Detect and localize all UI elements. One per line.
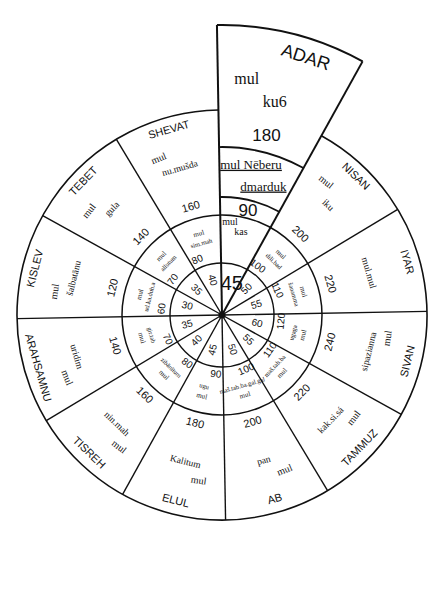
star-prefix: mul [275,462,294,478]
star-prefix: mul [80,201,98,220]
spoke-line [222,311,427,315]
middle-star: ugu [199,381,211,390]
month-name: ARAHSAMNU [23,332,54,403]
inner-value: 35 [189,282,205,298]
spoke-line [46,315,222,421]
middle-star: ugaga [288,324,299,341]
star-name: ku6 [263,93,287,110]
month-name: ADAR [279,40,333,74]
inner-value: 35 [180,317,194,331]
middle-star: šanamma [287,282,301,308]
month-name: TAMMUZ [339,427,380,469]
middle-value: 90 [210,368,223,380]
star-name: nu.mušda [161,158,200,178]
month-name: SIVAN [398,344,417,378]
middle-star-prefix: mul [135,288,145,301]
center-dot [219,312,226,319]
star-name: gula [103,199,122,218]
outer-value: 220 [322,273,339,294]
outer-value: 140 [130,226,151,248]
month-name: ELUL [161,491,191,509]
star-name: kak.si.sá [316,404,346,435]
inner-value: 30 [181,299,195,312]
spoke-line [17,315,222,319]
star-prefix: mul [234,70,259,87]
inner-star: kas [234,226,247,237]
star-prefix: mul [190,474,207,487]
inner-value: 50 [226,343,240,357]
middle-value: 60 [155,302,167,315]
star-name: šalbatānu [65,259,83,296]
middle-star-prefix: mul [192,229,205,240]
middle-star-prefix: mul Nēberu [220,157,282,172]
astrolabe-svg: ADARmulku6180mul Nēberudmarduk90mulkas45… [0,0,447,607]
star-name: uridim [68,343,85,371]
outer-value: 140 [107,335,124,356]
month-name: NISAN [340,160,373,192]
star-name: Kalitum [169,453,202,470]
star-name: nin.mah [102,409,131,438]
middle-star-prefix: mul [298,329,308,342]
inner-value: 60 [250,316,264,329]
star-prefix: mul [110,437,129,455]
middle-star-prefix: mul [298,285,309,298]
middle-star-prefix: mul [275,366,288,379]
middle-value: 100 [236,360,256,377]
spoke-line [222,315,226,520]
month-name: IYAR [398,248,416,275]
inner-value: 45 [206,343,219,357]
star-prefix: mul [59,368,75,387]
outer-value: 180 [185,415,206,431]
middle-star-prefix: mul [196,391,209,401]
star-prefix: mul [149,150,168,166]
middle-value: 120 [274,312,287,330]
middle-value: 110 [269,281,286,300]
month-name: KISLEV [24,248,45,289]
outer-value: 160 [180,198,201,215]
middle-value: 110 [261,340,280,360]
inner-value: 55 [250,297,264,311]
month-name: TISREH [71,434,108,471]
outer-value: 120 [104,277,120,298]
inner-value: 55 [241,332,257,348]
inner-value: 40 [206,273,220,287]
middle-star: sim.mah [190,236,214,249]
outer-value: 200 [242,413,263,430]
middle-star: ud.ka.duh.a [142,281,156,312]
star-name: iku [320,197,336,213]
spoke-line [222,315,328,491]
outer-value: 240 [322,331,338,352]
star-name: pan [256,454,272,467]
star-prefix: mul [381,330,394,347]
astrolabe-diagram: ADARmulku6180mul Nēberudmarduk90mulkas45… [0,0,447,607]
star-prefix: mul [48,283,61,300]
inner-prefix: mul [222,216,238,227]
star-name: sipazianna [359,330,379,372]
inner-value: 40 [189,332,205,348]
outer-value: 200 [290,223,312,244]
middle-value: 90 [238,201,257,220]
middle-star-prefix: mul [239,390,252,401]
middle-star: gir.tab [146,326,157,344]
middle-star: dmarduk [240,179,287,194]
month-name: TEBET [66,164,99,198]
middle-star-prefix: mul [136,332,147,345]
star-name: mul.mul [360,256,379,290]
star-prefix: mul [344,408,362,427]
outer-value: 180 [252,126,280,145]
month-name: AB [266,491,283,507]
star-prefix: mul [317,173,336,191]
middle-star-prefix: mul [157,368,170,381]
